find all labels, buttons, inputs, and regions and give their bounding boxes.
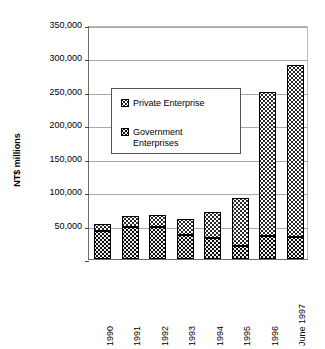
bar-segment-private xyxy=(259,92,276,236)
legend-label-government: Government Enterprises xyxy=(133,127,183,149)
y-axis-tick-label: 250,000 xyxy=(28,88,82,97)
y-axis-tick-label: 350,000 xyxy=(28,21,82,30)
x-axis-tick-label: 1993 xyxy=(188,326,197,346)
bar-segment-government xyxy=(122,227,139,259)
bar-segment-government xyxy=(287,237,304,259)
x-axis-tick-label: 1992 xyxy=(161,326,170,346)
bar-segment-government xyxy=(149,227,166,259)
bar-segment-private xyxy=(94,224,111,231)
y-axis-tick-label: 200,000 xyxy=(28,121,82,130)
x-axis-tick-label: 1996 xyxy=(271,326,280,346)
legend-entry-private: Private Enterprise xyxy=(121,98,205,109)
bar-segment-private xyxy=(122,216,139,227)
x-axis-tick-label: 1991 xyxy=(133,326,142,346)
bar-segment-private xyxy=(177,219,194,235)
bar-segment-government xyxy=(204,238,221,259)
bar-segment-government xyxy=(94,231,111,259)
x-axis-tick-label: 1990 xyxy=(106,326,115,346)
y-axis-tick-labels: 50,000100,000150,000200,000250,000300,00… xyxy=(26,0,82,349)
bar-group xyxy=(259,25,276,259)
bar-group xyxy=(287,25,304,259)
bar-segment-private xyxy=(204,212,221,237)
legend: Private Enterprise Government Enterprise… xyxy=(111,88,241,154)
private-swatch-icon xyxy=(121,99,129,107)
legend-entry-government: Government Enterprises xyxy=(121,127,183,149)
bar-segment-government xyxy=(232,246,249,259)
legend-label-private: Private Enterprise xyxy=(133,98,205,109)
bar-segment-government xyxy=(177,235,194,259)
y-axis-tick-label: 300,000 xyxy=(28,54,82,63)
y-axis-tick-label: 150,000 xyxy=(28,155,82,164)
bar-chart: NT$ millions 50,000100,000150,000200,000… xyxy=(0,0,325,349)
x-axis-tick-labels: 1990199119921993199419951996June 1997 xyxy=(88,262,308,349)
x-axis-tick-label: 1995 xyxy=(243,326,252,346)
bar-segment-private xyxy=(149,215,166,227)
x-axis-tick-label: 1994 xyxy=(216,326,225,346)
x-axis-tick-label: June 1997 xyxy=(298,304,307,346)
bar-group xyxy=(94,25,111,259)
bar-segment-private xyxy=(232,198,249,246)
bar-segment-government xyxy=(259,236,276,259)
y-axis-tick-label: 50,000 xyxy=(28,222,82,231)
bar-segment-private xyxy=(287,65,304,237)
government-swatch-icon xyxy=(121,128,129,136)
y-axis-tick-label: 100,000 xyxy=(28,188,82,197)
y-axis-title: NT$ millions xyxy=(12,105,22,215)
